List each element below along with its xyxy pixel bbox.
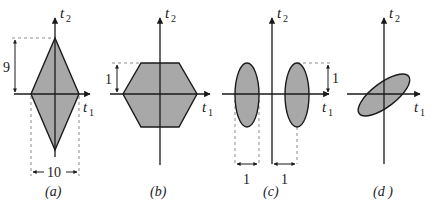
t1-label-a: t [83, 99, 88, 115]
t2-label-a: t [60, 5, 65, 21]
caption-b: (b) [150, 184, 167, 200]
t1-label-c: t [322, 99, 327, 115]
width-label-a: 10 [47, 165, 61, 180]
panel-b: 1 t 2 t 1 (b) [105, 5, 213, 200]
t2-label-d: t [389, 5, 394, 21]
t1-label-b: t [202, 99, 207, 115]
t1-sub-a: 1 [89, 107, 94, 118]
right-ellipse-region [285, 63, 309, 127]
t2-label-b: t [165, 5, 170, 21]
offset-label-c: 1 [281, 172, 288, 187]
t1-sub-d: 1 [420, 107, 425, 118]
left-ellipse-region [235, 63, 259, 127]
height-label-b: 1 [105, 72, 112, 87]
left-width-label-c: 1 [243, 172, 250, 187]
t1-sub-b: 1 [208, 107, 213, 118]
t1-sub-c: 1 [328, 107, 333, 118]
figure-canvas: 9 10 t 2 t 1 (a) 1 t 2 t 1 (b) [0, 0, 436, 212]
panel-d: t 2 t 1 (d ) [347, 5, 425, 200]
t2-sub-c: 2 [283, 13, 288, 24]
t2-sub-b: 2 [171, 13, 176, 24]
t2-sub-d: 2 [395, 13, 400, 24]
t1-label-d: t [414, 99, 419, 115]
caption-c: (c) [263, 184, 279, 200]
panel-a: 9 10 t 2 t 1 (a) [3, 5, 94, 200]
height-label-a: 9 [3, 60, 10, 75]
caption-a: (a) [45, 184, 62, 200]
height-label-c: 1 [332, 71, 339, 86]
t2-sub-a: 2 [66, 13, 71, 24]
t2-label-c: t [277, 5, 282, 21]
panel-c: 1 1 1 t 2 t 1 (c) [222, 5, 339, 200]
caption-d: (d ) [373, 184, 393, 200]
